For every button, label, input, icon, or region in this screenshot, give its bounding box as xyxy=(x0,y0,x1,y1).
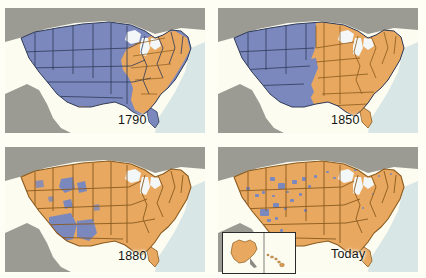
map-canvas-1850 xyxy=(218,8,418,133)
reservation-kansas-1880 xyxy=(93,204,100,211)
map-panel-1850[interactable]: 1850 xyxy=(213,0,426,139)
map-svg-1880 xyxy=(5,147,205,272)
map-series-figure: 1790 xyxy=(0,0,426,278)
reservation-nw-1880 xyxy=(35,180,44,188)
map-canvas-1880 xyxy=(5,147,205,272)
map-svg-1850 xyxy=(218,8,418,133)
map-panel-1790[interactable]: 1790 xyxy=(0,0,213,139)
map-panel-1880[interactable]: 1880 xyxy=(0,139,213,278)
alaska-hawaii-inset[interactable] xyxy=(222,232,296,274)
map-panel-today[interactable]: Today xyxy=(213,139,426,278)
map-svg-1790 xyxy=(5,8,205,133)
inset-svg xyxy=(223,233,295,273)
map-canvas-1790 xyxy=(5,8,205,133)
